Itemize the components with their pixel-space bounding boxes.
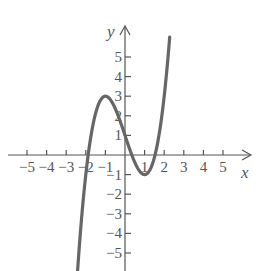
y-tick-label: −5 [106,245,122,261]
y-tick-label: 1 [115,127,123,143]
x-tick-label: 2 [160,159,168,175]
x-tick-label: −3 [58,159,74,175]
function-graph: x y −5−4−3−2−11234554321−1−2−3−4−5 [0,0,265,271]
y-axis-label: y [105,22,115,41]
y-tick-label: −1 [106,167,122,183]
y-tick-label: −4 [106,225,122,241]
y-tick-label: 3 [115,88,123,104]
y-tick-label: 4 [115,69,123,85]
function-curve [78,37,170,271]
x-tick-label: −5 [19,159,35,175]
x-tick-label: 5 [219,159,227,175]
y-tick-label: 5 [115,49,123,65]
x-tick-label: 3 [180,159,188,175]
y-tick-label: −2 [106,186,122,202]
x-tick-label: 4 [200,159,208,175]
x-tick-label: −4 [39,159,55,175]
x-axis-label: x [240,163,249,182]
y-tick-label: −3 [106,206,122,222]
